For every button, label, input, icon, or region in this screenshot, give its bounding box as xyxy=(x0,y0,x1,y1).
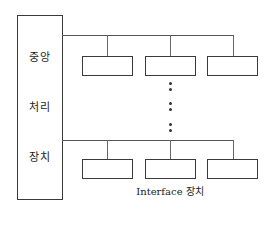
interface-device-label: Interface 장치 xyxy=(110,183,230,198)
top-device-1 xyxy=(82,56,133,76)
bottom-stem-3 xyxy=(233,140,234,159)
top-stem-2 xyxy=(170,35,171,56)
ellipsis-dot xyxy=(169,82,172,85)
ellipsis-dot xyxy=(169,129,172,132)
cpu-label-line-2: 처리 xyxy=(17,98,62,114)
ellipsis-dot xyxy=(169,108,172,111)
top-stem-3 xyxy=(233,35,234,56)
cpu-label-line-3: 장치 xyxy=(17,148,62,164)
bottom-stem-1 xyxy=(107,140,108,159)
ellipsis-dot xyxy=(169,88,172,91)
top-device-3 xyxy=(207,56,258,76)
bottom-device-2 xyxy=(145,159,196,179)
bottom-stem-2 xyxy=(170,140,171,159)
ellipsis-dot xyxy=(169,102,172,105)
bottom-device-1 xyxy=(82,159,133,179)
cpu-label-line-1: 중앙 xyxy=(17,48,62,64)
bottom-device-3 xyxy=(207,159,258,179)
bottom-bus-line xyxy=(62,140,234,141)
top-device-2 xyxy=(145,56,196,76)
top-stem-1 xyxy=(107,35,108,56)
top-bus-line xyxy=(62,35,234,36)
ellipsis-dot xyxy=(169,123,172,126)
